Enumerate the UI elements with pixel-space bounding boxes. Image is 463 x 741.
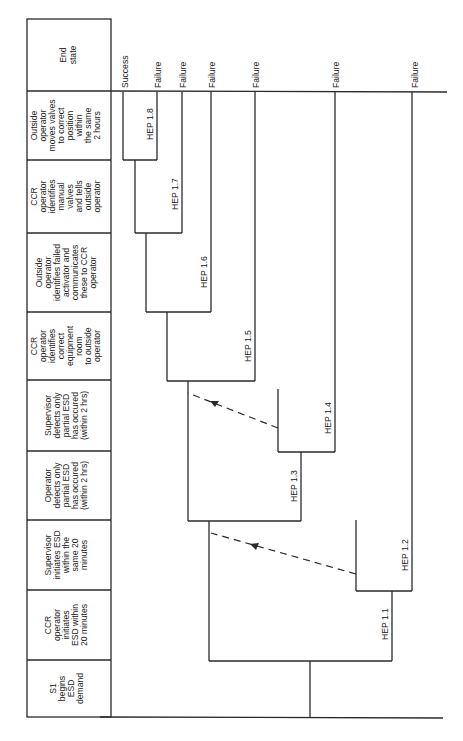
end-state-baseline — [111, 91, 447, 92]
svg-text:(within 2 hrs): (within 2 hrs) — [79, 461, 89, 510]
svg-text:(within 2 hrs): (within 2 hrs) — [79, 391, 89, 440]
hep-label: HEP 1.8 — [145, 108, 155, 140]
hep-label: HEP 1.4 — [323, 402, 333, 434]
svg-text:2 hours: 2 hours — [92, 111, 102, 140]
end-state-success: Success — [120, 56, 130, 88]
heading-s1-begins-esd-demand: S1 begins ESD demand — [48, 673, 85, 704]
svg-text:operator: operator — [92, 180, 102, 212]
hep-label: HEP 1.1 — [380, 608, 390, 640]
end-state-failure: Failure — [153, 62, 163, 88]
hep-label: HEP 1.6 — [199, 256, 209, 288]
heading-ccr-identifies-equipment-room: CCR operator identifies correct equipmen… — [29, 325, 102, 366]
svg-text:operator: operator — [92, 330, 102, 362]
hep-label: HEP 1.3 — [289, 470, 299, 502]
svg-text:20 minutes: 20 minutes — [79, 604, 89, 646]
heading-outside-identifies-failed-activator: Outside operator identifies failed activ… — [34, 244, 98, 301]
end-state-failure: Failure — [331, 62, 341, 88]
end-state-labels: Success Failure Failure Failure Failure … — [120, 56, 420, 88]
hep-label: HEP 1.7 — [170, 178, 180, 210]
svg-text:demand: demand — [75, 673, 85, 704]
svg-text:operator: operator — [88, 256, 98, 288]
heading-ccr-identifies-manual-valves: CCR operator identifies manual valves an… — [29, 180, 102, 214]
svg-text:minutes: minutes — [79, 540, 89, 570]
hep-label: HEP 1.5 — [243, 330, 253, 362]
tree-branches — [123, 92, 412, 717]
end-state-failure: Failure — [410, 62, 420, 88]
end-state-failure: Failure — [251, 62, 261, 88]
heading-end-state: End state — [58, 45, 78, 64]
svg-text:End: End — [58, 47, 68, 63]
heading-supervisor-detects-partial: Supervisor detects only partial ESD has … — [43, 391, 89, 440]
end-state-failure: Failure — [178, 62, 188, 88]
heading-outside-moves-valves: Outside operator moves valves to correct… — [29, 99, 102, 151]
heading-supervisor-initiates-esd: Supervisor initiates ESD within the same… — [43, 530, 89, 579]
heading-ccr-initiates-esd: CCR operator initiates ESD within 20 min… — [43, 604, 89, 646]
hep-label: HEP 1.2 — [400, 539, 410, 571]
recovery-arrow-supervisor-detects — [188, 393, 278, 428]
recovery-arrow-supervisor-initiates — [211, 533, 356, 574]
hep-labels: HEP 1.1 HEP 1.2 HEP 1.3 HEP 1.4 HEP 1.5 … — [145, 108, 410, 640]
end-state-failure: Failure — [207, 62, 217, 88]
initiator-baseline — [100, 717, 443, 718]
heading-operator-detects-partial: Operator detects only partial ESD has oc… — [43, 461, 89, 510]
svg-text:state: state — [68, 45, 78, 64]
event-tree-diagram: End state Outside operator moves valves … — [0, 0, 463, 741]
